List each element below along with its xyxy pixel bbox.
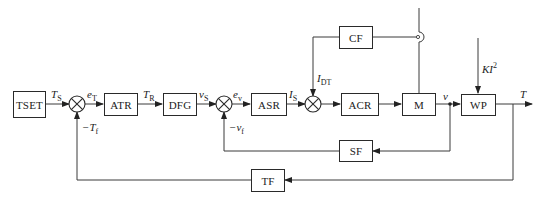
signal-label-ki2: KI2	[482, 62, 497, 75]
block-dfg: DFG	[163, 93, 197, 116]
block-asr: ASR	[251, 93, 287, 116]
block-tset: TSET	[13, 91, 46, 118]
signal-label-neg-vf: −vf	[229, 122, 244, 136]
signal-label-idt: IDT	[317, 73, 331, 87]
signal-label-tr: TR	[143, 89, 154, 103]
signal-label-ev: ev	[233, 89, 242, 103]
control-block-diagram: TSET ATR DFG ASR ACR M WP CF SF TF TS eT…	[0, 0, 535, 204]
block-atr: ATR	[104, 93, 138, 116]
signal-label-vs: vS	[199, 89, 208, 103]
summing-junction-2	[216, 96, 232, 112]
block-cf: CF	[339, 26, 373, 49]
block-acr: ACR	[341, 93, 379, 116]
signal-label-v: v	[443, 91, 448, 102]
block-m: M	[402, 93, 436, 116]
crossover-node	[416, 35, 419, 38]
block-sf: SF	[339, 140, 373, 162]
signal-label-neg-tf: −Tf	[82, 122, 98, 136]
summing-junction-3	[305, 96, 321, 112]
block-wp: WP	[461, 94, 496, 116]
signal-label-is: IS	[289, 89, 297, 103]
signal-label-et: eT	[87, 89, 97, 103]
branch-point	[448, 102, 452, 106]
signal-label-t: T	[520, 89, 526, 100]
signal-label-ts: TS	[51, 89, 62, 103]
block-tf: TF	[251, 169, 285, 192]
summing-junction-1	[69, 96, 85, 112]
